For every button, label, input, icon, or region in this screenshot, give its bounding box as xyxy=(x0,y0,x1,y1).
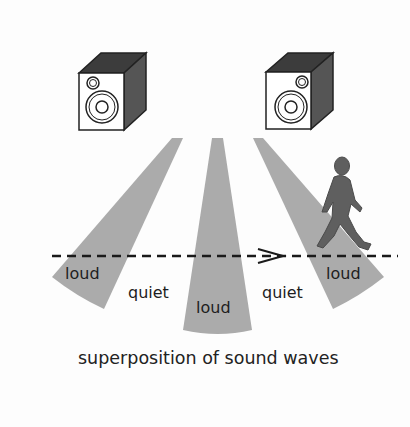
label-quiet-right: quiet xyxy=(262,285,303,301)
label-loud-left: loud xyxy=(65,266,100,282)
label-quiet-left: quiet xyxy=(128,285,169,301)
speaker-left-icon xyxy=(79,53,146,130)
speaker-right-icon xyxy=(266,53,333,129)
diagram-caption: superposition of sound waves xyxy=(78,348,339,368)
label-loud-center: loud xyxy=(196,300,231,316)
label-loud-right: loud xyxy=(326,266,361,282)
